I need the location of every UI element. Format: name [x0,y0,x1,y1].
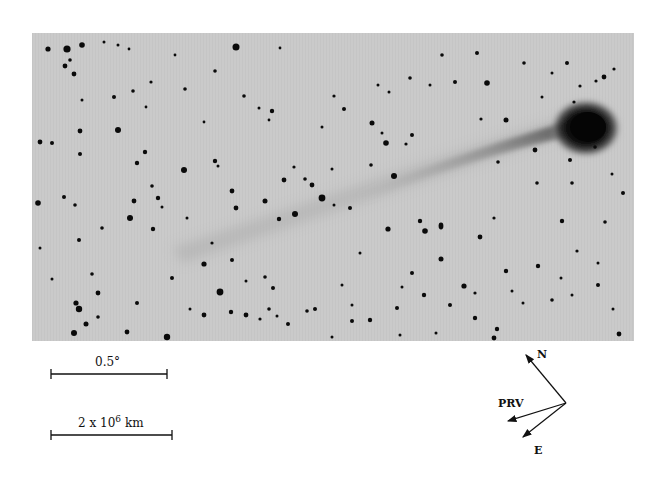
north-label: N [537,348,547,361]
prv-label: PRV [498,397,524,410]
east-label: E [534,444,542,457]
angular-scale-line [50,368,168,380]
comet-photograph [32,33,634,341]
angular-scale-label: 0.5° [95,355,120,369]
distance-scale-line [50,429,173,441]
distance-scale-bar: 2 x 106 km [50,412,173,444]
distance-scale-label: 2 x 106 km [78,414,144,430]
orientation-compass: N PRV E [490,345,590,465]
angular-scale-bar: 0.5° [50,355,168,383]
